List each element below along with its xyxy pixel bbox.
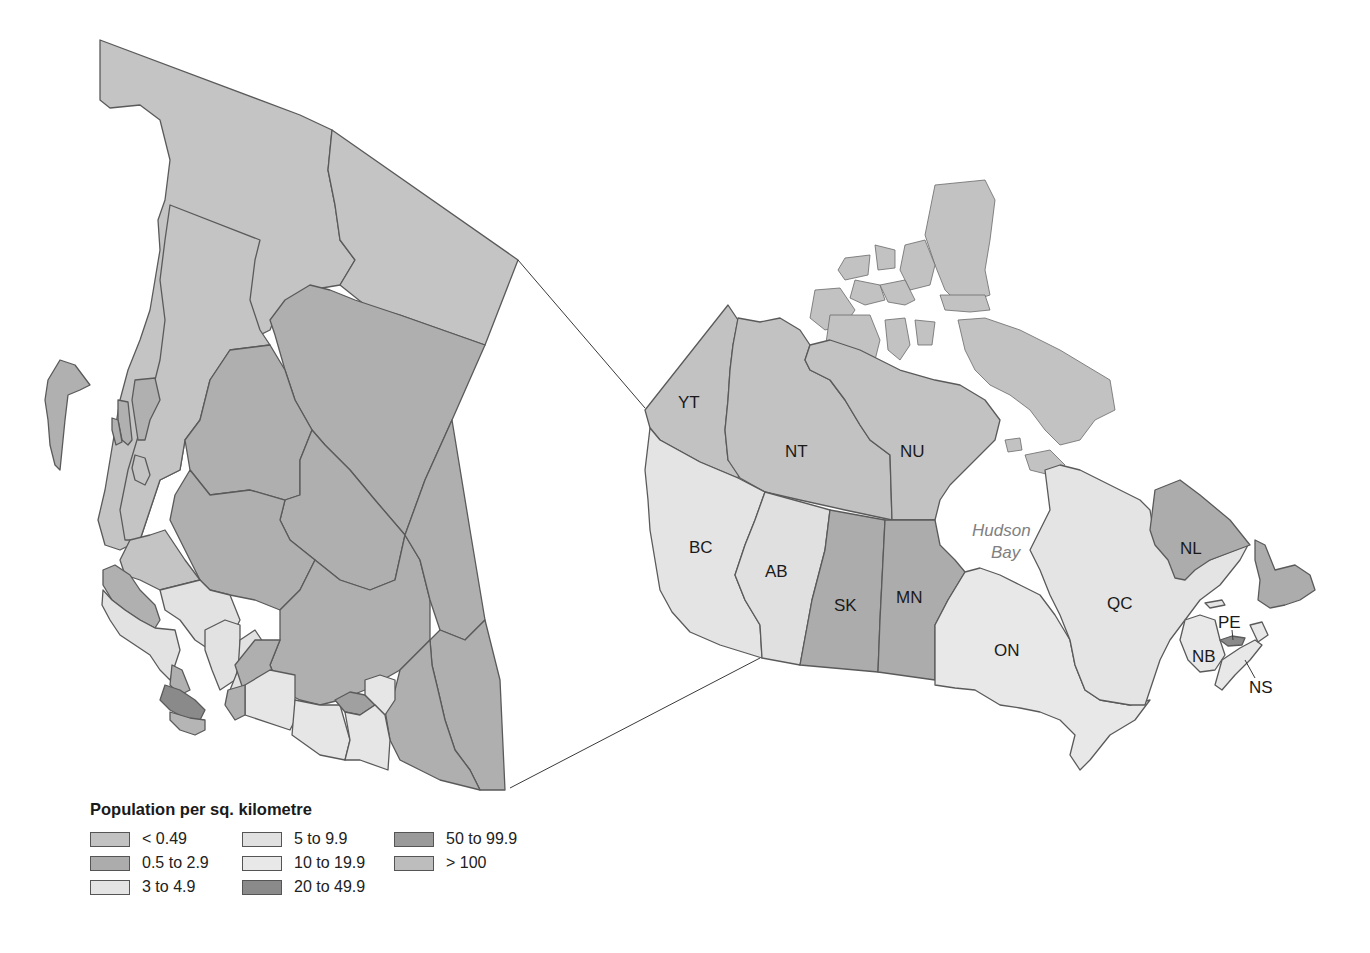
ellesmere-island[interactable] xyxy=(925,180,995,305)
legend-label: 3 to 4.9 xyxy=(142,878,195,896)
legend-item: 5 to 9.9 xyxy=(242,827,394,851)
label-sk: SK xyxy=(834,596,857,615)
cape-breton-island[interactable] xyxy=(1250,622,1268,642)
arctic-island-small-3[interactable] xyxy=(850,280,885,305)
legend-swatch xyxy=(394,832,434,847)
label-pe: PE xyxy=(1218,613,1241,632)
label-yt: YT xyxy=(678,393,700,412)
somerset-island[interactable] xyxy=(915,320,935,345)
bc-region-haida-gwaii[interactable] xyxy=(45,360,90,470)
legend-label: 0.5 to 2.9 xyxy=(142,854,209,872)
canada-map: YT NT NU BC AB SK MN ON QC NL PE NB NS H… xyxy=(645,180,1315,770)
legend-swatch xyxy=(242,832,282,847)
legend-swatch xyxy=(242,856,282,871)
legend-label: > 100 xyxy=(446,854,486,872)
legend-swatch xyxy=(90,832,130,847)
arctic-island-small-5[interactable] xyxy=(1005,438,1022,452)
arctic-island-small-2[interactable] xyxy=(875,245,895,270)
label-hudson-bay-line2: Bay xyxy=(991,543,1022,562)
label-qc: QC xyxy=(1107,594,1133,613)
legend-swatch xyxy=(90,880,130,895)
legend-label: < 0.49 xyxy=(142,830,187,848)
prince-of-wales-island[interactable] xyxy=(885,318,910,360)
label-ns: NS xyxy=(1249,678,1273,697)
legend-title: Population per sq. kilometre xyxy=(90,800,554,819)
legend-label: 5 to 9.9 xyxy=(294,830,347,848)
arctic-island-small-1[interactable] xyxy=(838,255,870,280)
legend-swatch xyxy=(242,880,282,895)
label-hudson-bay-line1: Hudson xyxy=(972,521,1031,540)
legend-swatch xyxy=(394,856,434,871)
legend-item: 10 to 19.9 xyxy=(242,851,394,875)
bc-detail-inset xyxy=(45,40,518,790)
legend-label: 20 to 49.9 xyxy=(294,878,365,896)
inset-connector-bottom xyxy=(510,658,760,788)
label-bc: BC xyxy=(689,538,713,557)
label-nt: NT xyxy=(785,442,808,461)
bc-region-kootenay-boundary[interactable] xyxy=(345,705,390,770)
legend-item: < 0.49 xyxy=(90,827,242,851)
bc-region-lower-mainland[interactable] xyxy=(225,685,245,720)
legend-swatch xyxy=(90,856,130,871)
devon-island[interactable] xyxy=(940,295,990,312)
legend-item: > 100 xyxy=(394,851,554,875)
legend-label: 10 to 19.9 xyxy=(294,854,365,872)
inset-connector-top xyxy=(518,260,645,408)
bc-region-okanagan[interactable] xyxy=(292,700,350,760)
legend-grid: < 0.49 0.5 to 2.9 3 to 4.9 5 to 9.9 10 t… xyxy=(90,827,554,899)
label-on: ON xyxy=(994,641,1020,660)
anticosti-island[interactable] xyxy=(1205,600,1225,608)
label-mn: MN xyxy=(896,588,922,607)
ns-pointer xyxy=(1245,660,1255,678)
legend-item: 3 to 4.9 xyxy=(90,875,242,899)
legend-item: 20 to 49.9 xyxy=(242,875,394,899)
label-ab: AB xyxy=(765,562,788,581)
legend-item: 0.5 to 2.9 xyxy=(90,851,242,875)
province-nl-newfoundland[interactable] xyxy=(1255,540,1315,608)
legend-item: 50 to 99.9 xyxy=(394,827,554,851)
legend: Population per sq. kilometre < 0.49 0.5 … xyxy=(90,800,554,899)
legend-label: 50 to 99.9 xyxy=(446,830,517,848)
label-nu: NU xyxy=(900,442,925,461)
label-nb: NB xyxy=(1192,647,1216,666)
label-nl: NL xyxy=(1180,539,1202,558)
